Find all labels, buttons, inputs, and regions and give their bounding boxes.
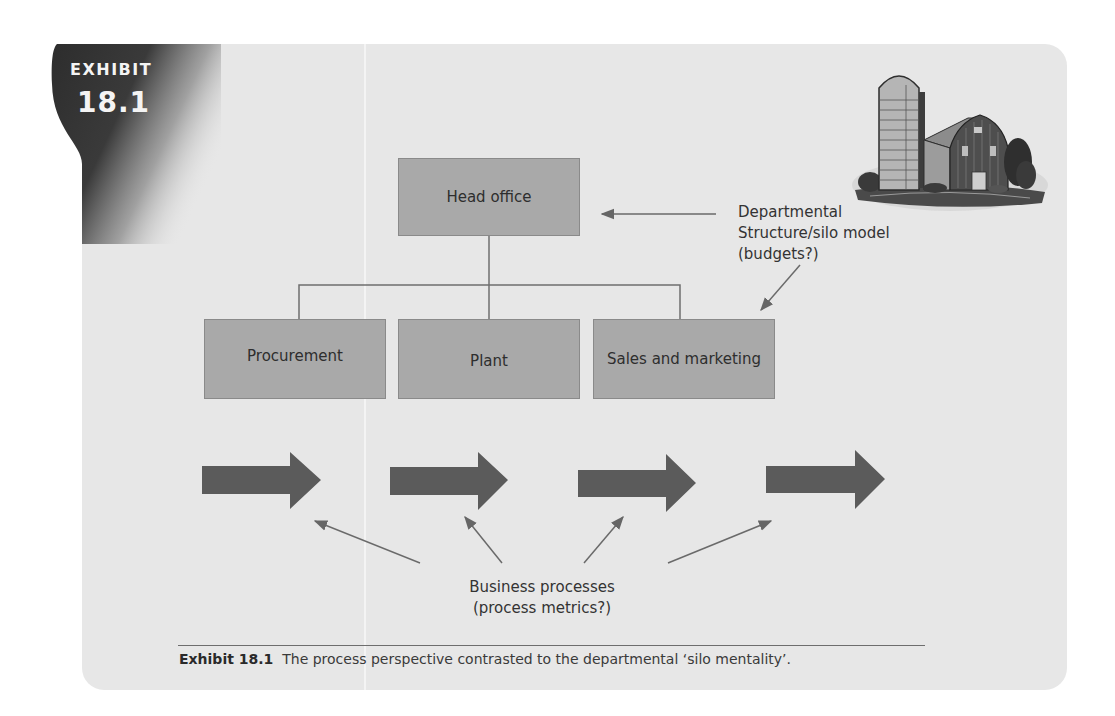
sales-marketing-box: Sales and marketing [593,319,775,399]
procurement-label: Procurement [247,347,343,365]
process-arrow-4 [766,450,885,509]
departmental-note: Departmental Structure/silo model (budge… [738,202,890,265]
barn-silo-illustration [852,76,1048,211]
process-note: Business processes (process metrics?) [442,577,642,619]
plant-label: Plant [470,352,508,370]
org-connectors [299,236,680,319]
plant-box: Plant [398,319,580,399]
departmental-note-line-3: (budgets?) [738,244,890,265]
process-arrow-3 [578,454,696,512]
departmental-note-line-1: Departmental [738,202,890,223]
process-note-line-1: Business processes [442,577,642,598]
process-note-line-2: (process metrics?) [442,598,642,619]
sales-marketing-label: Sales and marketing [607,350,761,368]
caption-label: Exhibit 18.1 [179,651,273,667]
departmental-note-line-2: Structure/silo model [738,223,890,244]
head-office-box: Head office [398,158,580,236]
process-arrow-2 [390,452,508,510]
head-office-label: Head office [446,188,531,206]
figure-caption: Exhibit 18.1 The process perspective con… [179,651,791,667]
procurement-box: Procurement [204,319,386,399]
process-pointers [315,517,771,563]
caption-divider [178,645,925,646]
process-arrows [202,450,885,512]
caption-text: The process perspective contrasted to th… [282,651,791,667]
process-arrow-1 [202,452,321,509]
